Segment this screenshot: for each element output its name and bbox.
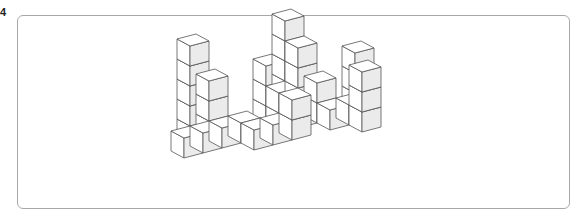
unit-cube	[196, 69, 228, 101]
unit-cube	[177, 34, 209, 66]
unit-cube	[349, 60, 381, 92]
unit-cube	[285, 36, 317, 68]
unit-cube	[279, 88, 311, 120]
unit-cube	[272, 9, 304, 41]
cube-structure-figure	[0, 0, 586, 222]
